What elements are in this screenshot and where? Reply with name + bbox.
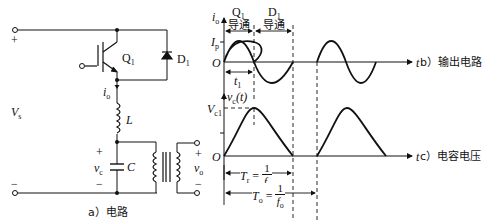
capacitor-icon <box>110 164 124 170</box>
q1-label-main: Q <box>122 51 131 65</box>
wb-y-sub: o <box>215 17 219 26</box>
wb-t1-sub: 1 <box>237 81 241 90</box>
out-minus: − <box>195 178 202 190</box>
wb-d1-main: D <box>268 5 277 19</box>
supply-plus: + <box>11 34 18 46</box>
wb-d1-text: 导通 <box>263 20 285 32</box>
cap-voltage-sub: c <box>99 168 103 177</box>
d1-label-main: D <box>177 52 186 66</box>
inductor-icon <box>117 103 120 133</box>
cap-label: C <box>127 161 135 173</box>
waveform-c-curve <box>224 108 386 156</box>
terminal-plus <box>13 28 18 33</box>
supply-minus: − <box>11 178 18 190</box>
to-main: T <box>252 189 259 203</box>
to-den-sub: o <box>280 201 284 210</box>
transformer-icon <box>153 152 180 182</box>
output-terminal-plus <box>195 141 200 146</box>
out-plus: + <box>195 148 202 160</box>
d1-label: D1 <box>177 53 190 70</box>
cap-plus: + <box>96 146 103 158</box>
wb-origin: O <box>212 57 221 69</box>
supply-label-sub: s <box>18 112 21 121</box>
wb-q1-main: Q <box>232 5 241 19</box>
q1-label: Q1 <box>122 52 135 69</box>
d1-label-sub: 1 <box>186 59 190 68</box>
diode-d1-icon <box>162 52 172 59</box>
output-voltage-sub: o <box>199 168 203 177</box>
wb-q1-text: 导通 <box>228 20 250 32</box>
wc-peak-label: Vc1 <box>207 103 222 120</box>
wc-y-arg: (t) <box>236 90 247 104</box>
output-terminal-minus <box>195 191 200 196</box>
wb-caption-text: b）输出电路 <box>420 57 482 69</box>
wc-origin: O <box>212 151 221 163</box>
tr-eq: = <box>249 169 262 183</box>
q1-label-sub: 1 <box>131 58 135 67</box>
tr-main: T <box>240 169 247 183</box>
wc-caption-text: c）电容电压 <box>420 151 481 163</box>
terminal-minus <box>13 191 18 196</box>
supply-label: Vs <box>11 106 21 123</box>
current-label-sub: o <box>106 92 110 101</box>
to-den: fo <box>275 195 285 212</box>
to-formula: To = 1fo <box>252 183 285 212</box>
gate-terminal <box>80 64 85 69</box>
to-fraction: 1fo <box>275 183 285 212</box>
to-eq: = <box>263 189 276 203</box>
current-arrow-icon <box>115 85 120 89</box>
wb-t-axis: t <box>416 57 419 69</box>
wc-peak-sub: c1 <box>214 109 222 118</box>
wb-peak-label: Ip <box>211 36 219 53</box>
to-num: 1 <box>275 183 285 195</box>
wc-y-label: vc(t) <box>227 91 247 108</box>
igbt-q1-icon <box>85 42 117 72</box>
current-label: io <box>103 86 110 103</box>
inductor-label: L <box>126 114 133 126</box>
circuit-caption: a）电路 <box>88 207 128 219</box>
tr-num: 1 <box>262 163 272 175</box>
wc-t-axis: t <box>416 151 419 163</box>
wb-peak-sub: p <box>215 42 219 51</box>
wb-y-label: io <box>212 11 219 28</box>
cap-minus: − <box>96 178 103 190</box>
